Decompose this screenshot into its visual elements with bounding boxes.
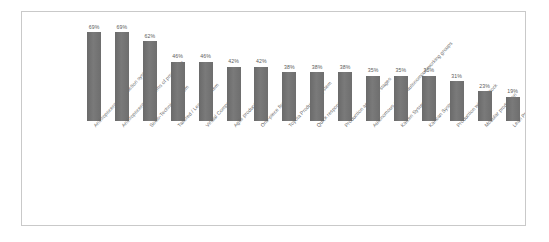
bar-column[interactable]: 35%	[359, 12, 387, 121]
bar[interactable]	[282, 72, 296, 121]
bar[interactable]	[366, 76, 380, 121]
bar[interactable]	[199, 62, 213, 121]
bar[interactable]	[227, 67, 241, 121]
bar-column[interactable]: 31%	[443, 12, 471, 121]
bar-column[interactable]: 42%	[220, 12, 248, 121]
bar-column[interactable]: 23%	[471, 12, 499, 121]
bar-column[interactable]: 19%	[499, 12, 527, 121]
bar-value-label: 19%	[496, 88, 527, 94]
bar-column[interactable]: 38%	[275, 12, 303, 121]
bar-column[interactable]: 35%	[415, 12, 443, 121]
bar[interactable]	[254, 67, 268, 121]
bar-column[interactable]: 35%	[387, 12, 415, 121]
bar-column[interactable]: 69%	[80, 12, 108, 121]
bar[interactable]	[310, 72, 324, 121]
plot-area: 69%Anthropocentric production system69%A…	[22, 12, 525, 225]
bar-column[interactable]: 42%	[247, 12, 275, 121]
bar-column[interactable]: 46%	[192, 12, 220, 121]
bar-chart-figure: 69%Anthropocentric production system69%A…	[0, 0, 549, 242]
bar-column[interactable]: 38%	[303, 12, 331, 121]
bar[interactable]	[422, 76, 436, 121]
bar[interactable]	[394, 76, 408, 121]
bar-value-label: 62%	[133, 33, 167, 39]
bar-value-label: 31%	[440, 73, 474, 79]
bar[interactable]	[171, 62, 185, 121]
bar[interactable]	[143, 41, 157, 121]
bar-column[interactable]: 38%	[331, 12, 359, 121]
chart-frame: 69%Anthropocentric production system69%A…	[21, 11, 526, 226]
bar[interactable]	[87, 32, 101, 121]
bar[interactable]	[115, 32, 129, 121]
bar[interactable]	[338, 72, 352, 121]
bar-value-label: 12%	[523, 97, 526, 103]
bar-column[interactable]: 69%	[108, 12, 136, 121]
bar-column[interactable]: 46%	[164, 12, 192, 121]
bar-value-label: 69%	[105, 24, 139, 30]
bar-column[interactable]: 62%	[136, 12, 164, 121]
